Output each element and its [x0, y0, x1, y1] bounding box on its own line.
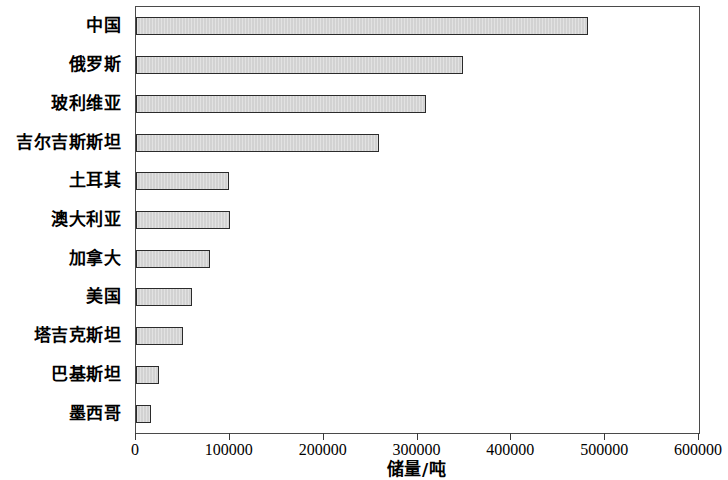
x-axis-tick — [510, 433, 511, 440]
bar-row — [136, 239, 699, 278]
bar-row — [136, 355, 699, 394]
bar — [136, 17, 588, 35]
x-axis-tick — [698, 433, 699, 440]
category-label: 巴基斯坦 — [51, 364, 128, 384]
bar — [136, 288, 192, 306]
bar-row — [136, 84, 699, 123]
bar-row — [136, 7, 699, 46]
category-label: 加拿大 — [69, 248, 129, 268]
x-axis-tick-label: 400000 — [486, 440, 534, 460]
x-axis-tick-label: 500000 — [580, 440, 628, 460]
bar-chart: 中国 俄罗斯 玻利维亚 吉尔吉斯斯坦 土耳其 澳大利亚 加拿大 美国 塔吉克斯坦… — [0, 0, 728, 480]
category-axis-labels: 中国 俄罗斯 玻利维亚 吉尔吉斯斯坦 土耳其 澳大利亚 加拿大 美国 塔吉克斯坦… — [0, 6, 128, 432]
bar — [136, 405, 151, 423]
bar — [136, 56, 463, 74]
bar-row — [136, 162, 699, 201]
category-label: 美国 — [86, 286, 128, 306]
category-label: 墨西哥 — [69, 403, 129, 423]
bar — [136, 95, 426, 113]
bar — [136, 211, 230, 229]
bar-series — [136, 7, 699, 433]
bar — [136, 172, 229, 190]
bar — [136, 327, 183, 345]
category-label: 土耳其 — [69, 170, 129, 190]
category-label: 澳大利亚 — [51, 209, 128, 229]
x-axis-tick — [229, 433, 230, 440]
x-axis-tick — [417, 433, 418, 440]
bar-row — [136, 123, 699, 162]
x-axis-title: 储量/吨 — [135, 459, 698, 479]
category-label: 俄罗斯 — [69, 54, 129, 74]
x-axis-tick-label: 100000 — [205, 440, 253, 460]
category-label: 塔吉克斯坦 — [34, 325, 129, 345]
x-axis-tick-label: 200000 — [299, 440, 347, 460]
x-axis-tick-label: 300000 — [393, 440, 441, 460]
bar-row — [136, 201, 699, 240]
bar — [136, 134, 379, 152]
bar-row — [136, 394, 699, 433]
bar-row — [136, 278, 699, 317]
x-axis-tick-label: 0 — [131, 440, 139, 460]
bar-row — [136, 46, 699, 85]
bar — [136, 250, 210, 268]
bar-row — [136, 317, 699, 356]
x-axis-tick-label: 600000 — [674, 440, 722, 460]
category-label: 中国 — [86, 15, 128, 35]
x-axis-tick — [323, 433, 324, 440]
category-label: 玻利维亚 — [51, 93, 128, 113]
x-axis-tick — [135, 433, 136, 440]
plot-area — [135, 6, 700, 434]
bar — [136, 366, 159, 384]
x-axis-tick — [604, 433, 605, 440]
category-label: 吉尔吉斯斯坦 — [16, 132, 128, 152]
